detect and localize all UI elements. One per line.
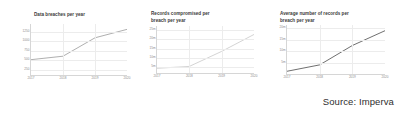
y-axis-tick-label: 250 [24, 68, 29, 71]
y-axis-tick-label: 25m [149, 28, 155, 31]
chart-title: Average number of records per breach per… [280, 11, 349, 24]
gridline-horizontal [287, 63, 385, 64]
y-axis-tick-label: 20m [279, 27, 285, 30]
y-axis-tick-label: 750 [24, 49, 29, 52]
x-axis-tick-label: 2019 [92, 77, 99, 80]
plot-wrapper: 5m10m15m20m2017201820192020 [272, 25, 387, 85]
gridline-vertical [95, 24, 96, 75]
gridline-horizontal [287, 28, 385, 29]
chart-panel-data-breaches: Data breaches per year 25050075010001250… [0, 0, 135, 113]
y-axis-tick-label: 15m [149, 47, 155, 50]
source-note: Source: Imperva [323, 96, 394, 107]
x-axis-tick-label: 2019 [218, 75, 225, 78]
plot-area: 5m10m15m20m2017201820192020 [286, 25, 385, 75]
y-axis-tick-label: 5m [151, 66, 155, 69]
plot-area: 250500750100012502017201820192020 [30, 24, 127, 76]
x-axis-tick-label: 2018 [316, 76, 323, 79]
gridline-horizontal [287, 51, 385, 52]
y-axis-tick-label: 10m [279, 50, 285, 53]
x-axis-tick-label: 2018 [186, 75, 193, 78]
chart-title: Data breaches per year [34, 12, 85, 19]
x-axis-tick-label: 2019 [349, 76, 356, 79]
gridline-horizontal [31, 70, 127, 71]
y-axis-tick-label: 1250 [23, 30, 30, 33]
gridline-vertical [222, 26, 223, 73]
gridline-vertical [352, 25, 353, 74]
y-axis-tick-label: 500 [24, 59, 29, 62]
gridline-horizontal [31, 60, 127, 61]
y-axis-tick-label: 20m [149, 38, 155, 41]
x-axis-tick-label: 2020 [251, 75, 258, 78]
x-axis-tick-label: 2017 [154, 75, 161, 78]
gridline-vertical [63, 24, 64, 75]
y-axis-tick-label: 15m [279, 38, 285, 41]
gridline-horizontal [157, 30, 254, 31]
x-axis-tick-label: 2017 [284, 76, 291, 79]
gridline-horizontal [157, 67, 254, 68]
gridline-horizontal [287, 40, 385, 41]
gridline-horizontal [157, 39, 254, 40]
plot-area: 5m10m15m20m25m2017201820192020 [156, 26, 254, 74]
x-axis-tick-label: 2017 [28, 77, 35, 80]
plot-wrapper: 5m10m15m20m25m2017201820192020 [142, 26, 256, 84]
gridline-horizontal [157, 49, 254, 50]
chart-panel-records-compromised: Records compromised per breach per year … [135, 0, 265, 113]
plot-wrapper: 250500750100012502017201820192020 [16, 24, 129, 86]
gridline-horizontal [31, 51, 127, 52]
x-axis-tick-label: 2018 [60, 77, 67, 80]
x-axis-tick-label: 2020 [124, 77, 131, 80]
y-axis-tick-label: 5m [281, 61, 285, 64]
x-axis-tick-label: 2020 [382, 76, 389, 79]
gridline-horizontal [157, 58, 254, 59]
gridline-vertical [320, 25, 321, 74]
gridline-horizontal [31, 32, 127, 33]
chart-title: Records compromised per breach per year [151, 11, 210, 24]
line-series [287, 25, 385, 74]
gridline-vertical [189, 26, 190, 73]
y-axis-tick-label: 10m [149, 56, 155, 59]
y-axis-tick-label: 1000 [23, 40, 30, 43]
series-line [31, 29, 127, 59]
gridline-horizontal [31, 41, 127, 42]
